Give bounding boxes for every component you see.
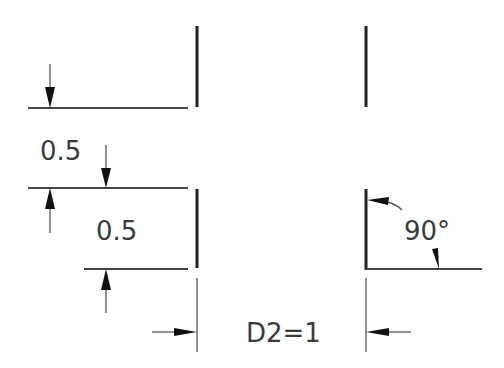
down-arrow-icon: [101, 168, 111, 188]
up-arrow-icon: [45, 188, 55, 209]
angle-label: 90°: [404, 216, 450, 246]
angle-arrow-icon: [367, 197, 389, 205]
angle-arc: [387, 202, 402, 210]
left-arrow-icon: [366, 328, 389, 336]
right-arrow-icon: [174, 328, 197, 336]
dimension-drawing: 0.5 0.5 90° D2=1: [0, 0, 504, 368]
horizontal-dimension-label: D2=1: [246, 318, 321, 348]
dimension-label-lower: 0.5: [96, 216, 137, 246]
angle-arrow-icon: [432, 248, 439, 269]
down-arrow-icon: [45, 87, 55, 108]
up-arrow-icon: [101, 269, 111, 290]
dimension-label-upper: 0.5: [40, 136, 81, 166]
